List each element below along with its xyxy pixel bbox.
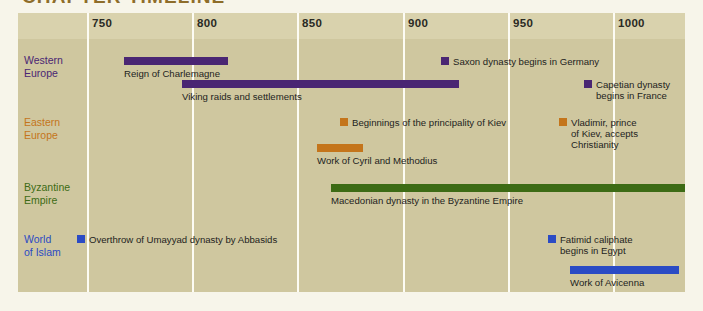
event-marker-overthrow-umayyad (77, 235, 85, 243)
row-label-line1: Byzantine (24, 181, 90, 194)
event-caption-viking-raids: Viking raids and settlements (182, 91, 302, 102)
event-marker-saxon-dynasty (441, 57, 449, 65)
row-label-line1: Western (24, 54, 90, 67)
gridline-850 (297, 13, 299, 292)
event-bar-work-of-avicenna (570, 266, 679, 274)
axis-tick-label-950: 950 (513, 17, 533, 29)
event-caption-principality-of-kiev: Beginnings of the principality of Kiev (352, 117, 506, 128)
event-caption-saxon-dynasty: Saxon dynasty begins in Germany (453, 56, 599, 67)
row-label-line2: Europe (24, 129, 90, 142)
event-bar-cyril-and-methodius (317, 144, 363, 152)
axis-tick-label-1000: 1000 (618, 17, 645, 29)
axis-tick-label-850: 850 (302, 17, 322, 29)
event-bar-viking-raids (182, 80, 459, 88)
page-title: CHAPTER TIMELINE (22, 0, 225, 8)
event-caption-capetian-dynasty: Capetian dynasty begins in France (596, 79, 670, 101)
event-caption-vladimir-christianity: Vladimir, prince of Kiev, accepts Christ… (571, 117, 638, 150)
event-marker-fatimid-caliphate (548, 235, 556, 243)
row-label-line1: Eastern (24, 116, 90, 129)
timeline-axis-header-band (18, 13, 685, 39)
event-caption-cyril-and-methodius: Work of Cyril and Methodius (317, 155, 437, 166)
timeline-chart: 7508008509009501000 WesternEuropeReign o… (18, 13, 685, 292)
row-label-byzantine-empire: ByzantineEmpire (24, 181, 90, 206)
row-label-eastern-europe: EasternEurope (24, 116, 90, 141)
event-caption-fatimid-caliphate: Fatimid caliphate begins in Egypt (560, 234, 633, 256)
axis-tick-label-800: 800 (197, 17, 217, 29)
event-caption-reign-of-charlemagne: Reign of Charlemagne (124, 68, 220, 79)
row-label-western-europe: WesternEurope (24, 54, 90, 79)
axis-tick-label-900: 900 (408, 17, 428, 29)
event-caption-overthrow-umayyad: Overthrow of Umayyad dynasty by Abbasids (89, 234, 277, 245)
event-marker-principality-of-kiev (340, 118, 348, 126)
axis-tick-label-750: 750 (92, 17, 112, 29)
event-marker-vladimir-christianity (559, 118, 567, 126)
gridline-950 (508, 13, 510, 292)
gridline-900 (403, 13, 405, 292)
event-caption-work-of-avicenna: Work of Avicenna (570, 277, 644, 288)
event-bar-macedonian-dynasty (331, 184, 685, 192)
gridline-800 (192, 13, 194, 292)
row-label-line2: Europe (24, 67, 90, 80)
event-marker-capetian-dynasty (584, 80, 592, 88)
row-label-line2: Empire (24, 194, 90, 207)
row-label-line2: of Islam (24, 246, 90, 259)
event-caption-macedonian-dynasty: Macedonian dynasty in the Byzantine Empi… (331, 195, 523, 206)
event-bar-reign-of-charlemagne (124, 57, 228, 65)
